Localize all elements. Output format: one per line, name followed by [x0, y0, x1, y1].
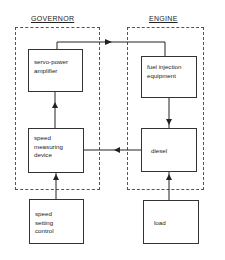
- load-label: load: [154, 219, 166, 228]
- diesel-label: diesel: [151, 147, 167, 156]
- speed-setting-control-label: speed setting control: [35, 210, 54, 236]
- load-block: load: [143, 200, 199, 244]
- servo-power-amplifier-label: servo-power amplifier: [34, 58, 68, 75]
- speed-measuring-device-label: speed measuring device: [34, 134, 63, 160]
- fuel-injection-equipment-block: fuel injection equipment: [141, 56, 197, 98]
- servo-power-amplifier-block: servo-power amplifier: [28, 49, 83, 92]
- speed-setting-control-block: speed setting control: [29, 199, 84, 244]
- fuel-injection-equipment-label: fuel injection equipment: [147, 63, 181, 80]
- diesel-block: diesel: [141, 128, 197, 172]
- speed-measuring-device-block: speed measuring device: [28, 128, 84, 173]
